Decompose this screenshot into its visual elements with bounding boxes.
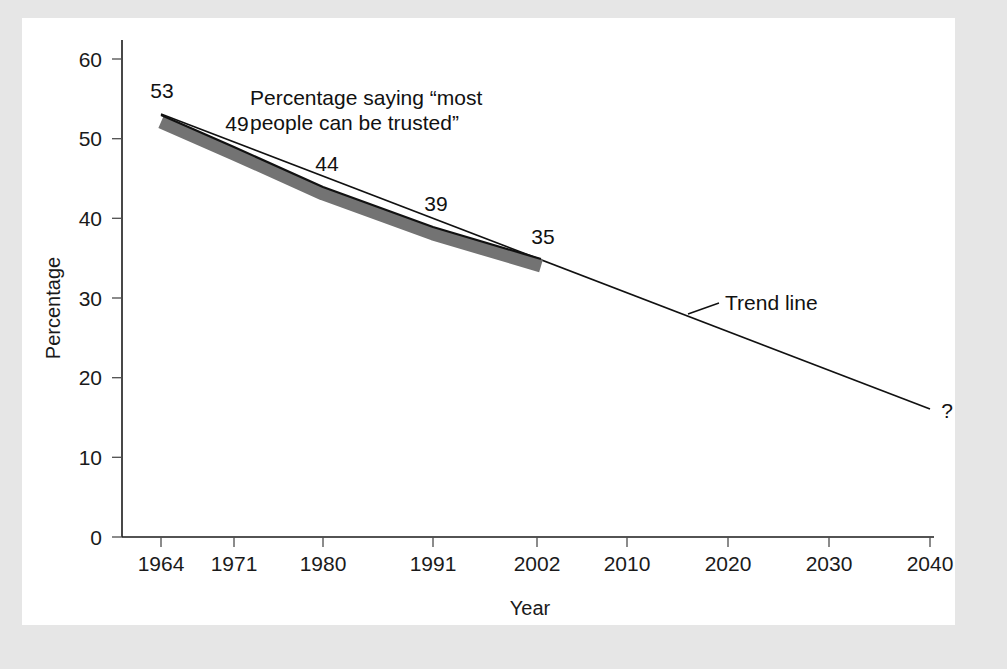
y-axis-title: Percentage bbox=[42, 257, 64, 359]
point-label-1971: 49 bbox=[225, 112, 248, 135]
trend-line-label: Trend line bbox=[725, 291, 818, 314]
point-label-1980: 44 bbox=[315, 152, 339, 175]
series-annotation-line1: Percentage saying “most bbox=[250, 86, 482, 109]
x-tick-label-1991: 1991 bbox=[410, 552, 457, 575]
x-tick-label-2010: 2010 bbox=[604, 552, 651, 575]
data-series-band bbox=[161, 122, 541, 266]
x-tick-label-2002: 2002 bbox=[514, 552, 561, 575]
point-label-1991: 39 bbox=[424, 192, 447, 215]
trend-line-leader bbox=[688, 303, 719, 314]
trend-line-path bbox=[161, 114, 930, 409]
trend-line-end-marker: ? bbox=[941, 399, 953, 422]
x-axis-title: Year bbox=[510, 597, 551, 619]
y-tick-label-50: 50 bbox=[79, 127, 102, 150]
series-annotation-line2: people can be trusted” bbox=[250, 111, 459, 134]
y-tick-label-20: 20 bbox=[79, 366, 102, 389]
y-tick-label-40: 40 bbox=[79, 207, 102, 230]
trust-percentage-line-chart: 0 10 20 30 40 50 60 Percentage 19 bbox=[22, 18, 955, 625]
point-label-2002: 35 bbox=[531, 225, 554, 248]
x-tick-label-1980: 1980 bbox=[300, 552, 347, 575]
x-tick-label-2020: 2020 bbox=[705, 552, 752, 575]
x-tick-label-2030: 2030 bbox=[806, 552, 853, 575]
y-tick-label-0: 0 bbox=[90, 526, 102, 549]
chart-card: 0 10 20 30 40 50 60 Percentage 19 bbox=[22, 18, 955, 625]
figure-root: 0 10 20 30 40 50 60 Percentage 19 bbox=[0, 0, 1007, 669]
y-tick-label-10: 10 bbox=[79, 446, 102, 469]
x-tick-label-2040: 2040 bbox=[907, 552, 954, 575]
y-axis-ticks bbox=[112, 59, 122, 537]
y-tick-label-60: 60 bbox=[79, 48, 102, 71]
x-tick-label-1964: 1964 bbox=[138, 552, 185, 575]
y-tick-label-30: 30 bbox=[79, 287, 102, 310]
point-label-1964: 53 bbox=[150, 79, 173, 102]
x-axis-ticks bbox=[161, 537, 930, 547]
x-tick-label-1971: 1971 bbox=[211, 552, 258, 575]
